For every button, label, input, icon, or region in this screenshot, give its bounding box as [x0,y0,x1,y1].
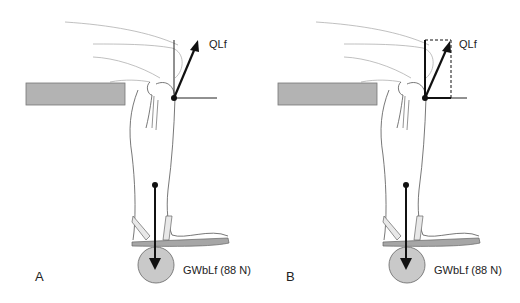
panel-letter: A [35,269,44,284]
panel-b: QLf GWbLf (88 N) B [251,0,511,303]
qlf-arrowhead [442,41,451,53]
qlf-arrowhead [190,40,199,52]
qlf-label: QLf [459,38,477,50]
gwblf-label: GWbLf (88 N) [434,264,502,276]
table-surface [278,83,377,105]
panel-letter: B [286,269,295,284]
table-surface [26,83,125,105]
qlf-label: QLf [209,38,227,50]
gwblf-label: GWbLf (88 N) [183,264,251,276]
panel-a: QLf GWbLf (88 N) A [0,0,260,303]
knee-axis-dot [422,95,428,101]
knee-axis-dot [171,95,177,101]
